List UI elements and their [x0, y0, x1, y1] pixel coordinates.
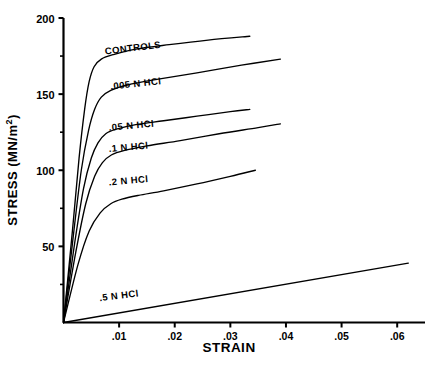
x-tick-label: .06 — [390, 330, 405, 342]
y-axis-title: STRESS (MN/m2) — [4, 114, 20, 226]
curve-label: .05 N HCl — [108, 118, 154, 133]
x-tick-label: .05 — [334, 330, 349, 342]
chart-canvas: 50100150200 .01.02.03.04.05.06 CONTROLS.… — [0, 0, 432, 371]
curve-labels: CONTROLS.005 N HCl.05 N HCl.1 N HCl.2 N … — [99, 39, 162, 303]
y-tick-label: 100 — [36, 165, 54, 177]
stress-strain-chart: 50100150200 .01.02.03.04.05.06 CONTROLS.… — [0, 0, 432, 371]
y-axis-tick-labels: 50100150200 — [36, 13, 54, 253]
x-axis-tick-labels: .01.02.03.04.05.06 — [112, 330, 405, 342]
curve-label: CONTROLS — [104, 39, 161, 57]
curve-05-n-hcl — [64, 109, 250, 322]
curve-2-n-hcl — [64, 170, 256, 322]
x-axis-title: STRAIN — [202, 340, 255, 355]
y-tick-label: 150 — [36, 89, 54, 101]
curve-label: .2 N HCl — [108, 173, 148, 187]
y-tick-label: 200 — [36, 13, 54, 25]
curve-label: .5 N HCl — [99, 287, 140, 303]
y-tick-label: 50 — [42, 241, 54, 253]
x-tick-label: .01 — [112, 330, 127, 342]
x-tick-label: .02 — [167, 330, 182, 342]
x-tick-label: .04 — [279, 330, 294, 342]
curve-005-n-hcl — [64, 59, 281, 322]
curve-label: .1 N HCl — [108, 140, 148, 154]
curve-1-n-hcl — [64, 124, 281, 323]
curve-label: .005 N HCl — [110, 75, 162, 91]
